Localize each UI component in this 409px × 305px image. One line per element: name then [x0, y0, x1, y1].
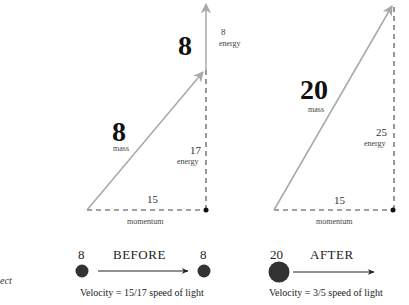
before-left-mass: 8 — [78, 248, 85, 261]
before-right-mass: 8 — [200, 248, 207, 261]
before-extra-energy-value: 8 — [221, 28, 226, 37]
after-particle — [269, 262, 290, 283]
after-momentum-label: momentum — [316, 218, 352, 226]
before-right-particle — [198, 265, 211, 278]
after-mass-label: mass — [308, 106, 324, 114]
after-mass: 20 — [270, 248, 283, 261]
after-corner-dot — [391, 208, 396, 213]
before-title: BEFORE — [113, 248, 166, 261]
before-energy-value: 17 — [190, 145, 201, 156]
after-energy-value: 25 — [376, 127, 387, 138]
after-triangle — [274, 4, 396, 213]
before-mass-label: mass — [113, 145, 129, 153]
before-momentum-label: momentum — [127, 218, 163, 226]
after-momentum-value: 15 — [334, 195, 345, 206]
after-title: AFTER — [310, 248, 354, 261]
before-velocity-text: Velocity = 15/17 speed of light — [80, 288, 204, 298]
after-mass-value: 20 — [300, 76, 328, 104]
before-extra-big-value: 8 — [178, 32, 192, 60]
before-corner-dot — [204, 208, 209, 213]
before-particles — [76, 265, 211, 278]
after-velocity-text: Velocity = 3/5 speed of light — [269, 288, 383, 298]
cropped-edge-text: ect — [0, 276, 12, 286]
before-mass-vector — [87, 72, 203, 210]
before-extra-energy-label: energy — [219, 40, 241, 48]
after-mass-vector — [274, 6, 392, 210]
before-momentum-value: 15 — [147, 194, 158, 205]
before-energy-label: energy — [177, 158, 199, 166]
after-particles — [269, 262, 375, 283]
before-mass-value: 8 — [112, 118, 126, 146]
before-left-particle — [76, 265, 89, 278]
after-energy-label: energy — [364, 140, 386, 148]
